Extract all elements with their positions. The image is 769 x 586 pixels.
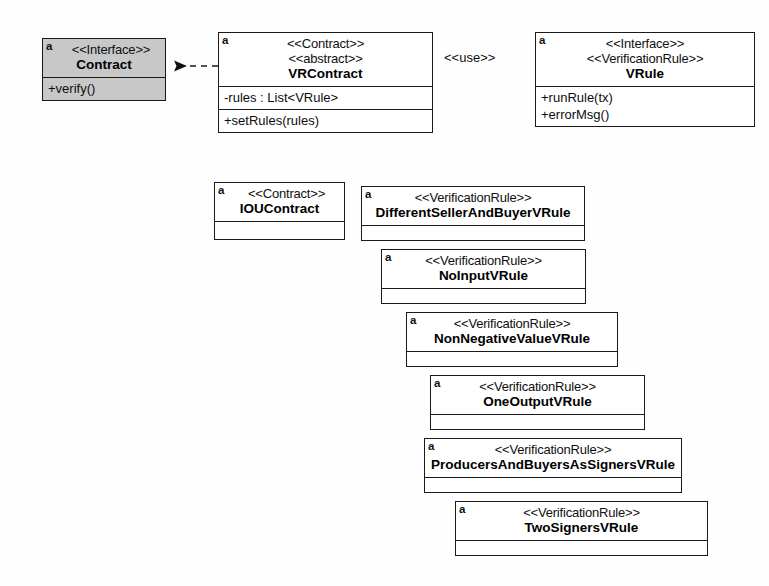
artifact-marker-icon: a — [459, 503, 465, 515]
rule-6-stereotype: <<VerificationRule>> — [460, 505, 703, 520]
rule-6-name: TwoSignersVRule — [460, 520, 703, 536]
class-box-rule-6[interactable]: a <<VerificationRule>> TwoSignersVRule — [455, 501, 708, 556]
vrule-stereotype-verificationrule: <<VerificationRule>> — [540, 51, 750, 66]
rule-5-header: a <<VerificationRule>> ProducersAndBuyer… — [425, 439, 681, 478]
rule-1-members — [362, 226, 584, 240]
use-dependency-label: <<use>> — [444, 50, 495, 65]
artifact-marker-icon: a — [365, 188, 371, 200]
vrule-operation-errormsg: +errorMsg() — [541, 106, 749, 123]
rule-2-stereotype: <<VerificationRule>> — [386, 253, 581, 268]
vrcontract-name: VRContract — [223, 66, 428, 82]
contract-operations: +verify() — [43, 78, 165, 100]
rule-3-name: NonNegativeValueVRule — [411, 331, 613, 347]
uml-class-diagram: Contract : realization (dashed, filled a… — [0, 0, 769, 586]
vrule-operation-runrule: +runRule(tx) — [541, 89, 749, 106]
rule-2-members — [382, 289, 585, 303]
rule-5-stereotype: <<VerificationRule>> — [429, 442, 677, 457]
rule-2-header: a <<VerificationRule>> NoInputVRule — [382, 250, 585, 289]
rule-3-members — [407, 352, 617, 366]
vrule-operations: +runRule(tx) +errorMsg() — [536, 87, 754, 126]
rule-5-members — [425, 478, 681, 492]
artifact-marker-icon: a — [385, 251, 391, 263]
vrcontract-attributes: -rules : List<VRule> — [219, 87, 432, 110]
artifact-marker-icon: a — [539, 34, 545, 46]
vrcontract-operations: +setRules(rules) — [219, 110, 432, 132]
contract-operation-verify: +verify() — [48, 80, 160, 97]
vrcontract-attribute-rules: -rules : List<VRule> — [224, 89, 427, 106]
class-box-vrcontract[interactable]: a <<Contract>> <<abstract>> VRContract -… — [218, 32, 433, 133]
ioucontract-stereotype: <<Contract>> — [219, 186, 340, 201]
vrule-header: a <<Interface>> <<VerificationRule>> VRu… — [536, 33, 754, 87]
rule-4-members — [431, 415, 644, 429]
class-box-rule-1[interactable]: a <<VerificationRule>> DifferentSellerAn… — [361, 186, 585, 241]
class-box-contract[interactable]: a <<Interface>> Contract +verify() — [42, 38, 166, 101]
class-box-rule-5[interactable]: a <<VerificationRule>> ProducersAndBuyer… — [424, 438, 682, 493]
vrcontract-stereotype-abstract: <<abstract>> — [223, 51, 428, 66]
vrule-name: VRule — [540, 66, 750, 82]
artifact-marker-icon: a — [222, 34, 228, 46]
class-box-rule-2[interactable]: a <<VerificationRule>> NoInputVRule — [381, 249, 586, 304]
artifact-marker-icon: a — [218, 184, 224, 196]
artifact-marker-icon: a — [410, 314, 416, 326]
rule-1-header: a <<VerificationRule>> DifferentSellerAn… — [362, 187, 584, 226]
rule-3-stereotype: <<VerificationRule>> — [411, 316, 613, 331]
vrcontract-stereotype-contract: <<Contract>> — [223, 36, 428, 51]
rule-6-header: a <<VerificationRule>> TwoSignersVRule — [456, 502, 707, 541]
vrcontract-header: a <<Contract>> <<abstract>> VRContract — [219, 33, 432, 87]
ioucontract-members — [215, 222, 344, 239]
vrcontract-operation-setrules: +setRules(rules) — [224, 112, 427, 129]
rule-5-name: ProducersAndBuyersAsSignersVRule — [429, 457, 677, 473]
contract-stereotype: <<Interface>> — [47, 42, 161, 57]
rule-1-name: DifferentSellerAndBuyerVRule — [366, 205, 580, 221]
class-box-rule-4[interactable]: a <<VerificationRule>> OneOutputVRule — [430, 375, 645, 430]
rule-3-header: a <<VerificationRule>> NonNegativeValueV… — [407, 313, 617, 352]
rule-4-stereotype: <<VerificationRule>> — [435, 379, 640, 394]
artifact-marker-icon: a — [46, 40, 52, 52]
contract-name: Contract — [47, 57, 161, 73]
class-box-vrule[interactable]: a <<Interface>> <<VerificationRule>> VRu… — [535, 32, 755, 127]
contract-header: a <<Interface>> Contract — [43, 39, 165, 78]
rule-4-name: OneOutputVRule — [435, 394, 640, 410]
vrule-stereotype-interface: <<Interface>> — [540, 36, 750, 51]
rule-4-header: a <<VerificationRule>> OneOutputVRule — [431, 376, 644, 415]
class-box-ioucontract[interactable]: a <<Contract>> IOUContract — [214, 182, 345, 240]
ioucontract-header: a <<Contract>> IOUContract — [215, 183, 344, 222]
artifact-marker-icon: a — [428, 440, 434, 452]
rule-1-stereotype: <<VerificationRule>> — [366, 190, 580, 205]
artifact-marker-icon: a — [434, 377, 440, 389]
rule-2-name: NoInputVRule — [386, 268, 581, 284]
class-box-rule-3[interactable]: a <<VerificationRule>> NonNegativeValueV… — [406, 312, 618, 367]
ioucontract-name: IOUContract — [219, 201, 340, 217]
rule-6-members — [456, 541, 707, 555]
